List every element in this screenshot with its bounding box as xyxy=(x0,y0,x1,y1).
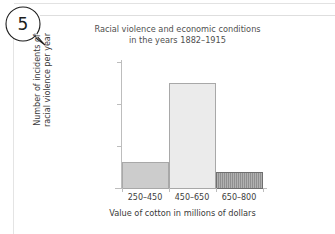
y-tick-mark-80 xyxy=(117,104,122,105)
chart-title: Racial violence and economic conditions … xyxy=(70,24,285,46)
x-tick-label-650-800: 650–800 xyxy=(215,193,263,202)
bar-450-650 xyxy=(169,83,216,189)
x-tick-label-450-650: 450–650 xyxy=(168,193,216,202)
x-axis-title: Value of cotton in millions of dollars xyxy=(75,208,290,218)
y-axis-title-line-2: racial violence per year xyxy=(43,20,53,140)
x-tick-label-250-450: 250–450 xyxy=(121,193,169,202)
y-axis-title: Number of incidents of racial violence p… xyxy=(33,20,53,140)
y-tick-mark-40 xyxy=(117,146,122,147)
bar-250-450 xyxy=(122,162,169,189)
x-tick-mark-2 xyxy=(216,188,217,192)
bar-650-800 xyxy=(216,172,263,189)
histogram-chart: Racial violence and economic conditions … xyxy=(0,0,335,234)
chart-title-line-1: Racial violence and economic conditions xyxy=(70,24,285,35)
x-tick-mark-0 xyxy=(122,188,123,192)
x-tick-mark-3 xyxy=(263,188,264,192)
chart-title-line-2: in the years 1882–1915 xyxy=(70,35,285,46)
y-tick-mark-120 xyxy=(117,62,122,63)
x-tick-mark-1 xyxy=(169,188,170,192)
y-axis-title-line-1: Number of incidents of xyxy=(33,20,43,140)
